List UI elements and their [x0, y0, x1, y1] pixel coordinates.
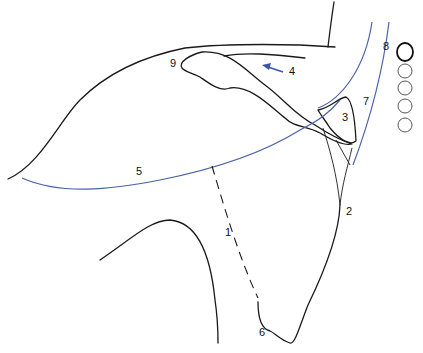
lateral-border-right — [340, 148, 352, 205]
neck-line — [328, 2, 334, 47]
label-4: 4 — [289, 65, 295, 77]
label-5: 5 — [136, 165, 142, 177]
label-1: 1 — [225, 226, 231, 238]
scapula-inferior-outline — [258, 205, 340, 343]
shoulder-anatomy-diagram: 1 2 3 4 5 6 7 8 9 — [0, 0, 423, 353]
vertebra-3 — [398, 81, 412, 95]
label-6: 6 — [259, 326, 265, 338]
dashed-line-1 — [212, 166, 258, 298]
label-9: 9 — [170, 57, 176, 69]
vertebra-2 — [398, 64, 412, 78]
arrow-icon — [262, 63, 283, 72]
clavicle-upper-edge — [224, 54, 305, 58]
arm-outline — [100, 220, 218, 343]
vertebra-4 — [398, 99, 412, 113]
label-2: 2 — [346, 205, 352, 217]
label-8: 8 — [383, 40, 389, 52]
vertebra-1 — [397, 43, 413, 61]
label-3: 3 — [342, 111, 348, 123]
vertebra-5 — [398, 118, 412, 132]
label-7: 7 — [363, 95, 369, 107]
